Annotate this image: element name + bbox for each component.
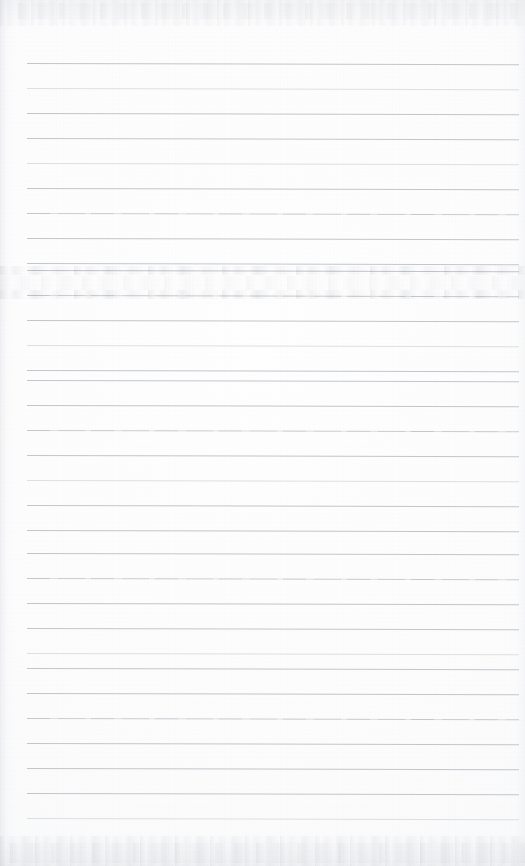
rule-line-15 xyxy=(27,380,519,382)
rule-line-31 xyxy=(27,768,519,770)
rule-line-16 xyxy=(27,405,519,407)
rule-line-4 xyxy=(27,138,519,140)
rule-line-24 xyxy=(27,603,519,605)
rule-line-33 xyxy=(27,818,519,820)
rule-line-12 xyxy=(27,320,519,322)
rule-line-10 xyxy=(27,270,519,272)
rule-line-23 xyxy=(27,578,519,580)
rule-line-26 xyxy=(27,653,519,655)
rule-line-32 xyxy=(27,793,519,795)
rule-line-6 xyxy=(27,188,519,190)
rule-line-1 xyxy=(27,63,519,65)
rule-line-7 xyxy=(27,213,519,215)
rule-line-27 xyxy=(27,668,519,670)
rule-line-21 xyxy=(27,530,519,532)
rule-line-18 xyxy=(27,455,519,457)
rule-line-9 xyxy=(27,263,519,265)
rule-line-20 xyxy=(27,505,519,507)
rule-line-29 xyxy=(27,718,519,720)
rule-line-13 xyxy=(27,345,519,347)
rule-line-2 xyxy=(27,88,519,90)
rule-line-22 xyxy=(27,553,519,555)
ruled-lines-group xyxy=(0,0,525,866)
rule-line-8 xyxy=(27,238,519,240)
scan-edge-noise-top xyxy=(0,0,525,26)
scan-edge-noise-bottom xyxy=(0,836,525,866)
rule-line-14 xyxy=(27,370,519,372)
rule-line-30 xyxy=(27,743,519,745)
rule-line-11 xyxy=(27,295,519,297)
scanned-notebook-page xyxy=(0,0,525,866)
rule-line-17 xyxy=(27,430,519,432)
rule-line-28 xyxy=(27,693,519,695)
rule-line-19 xyxy=(27,480,519,482)
rule-line-25 xyxy=(27,628,519,630)
rule-line-3 xyxy=(27,113,519,115)
rule-line-5 xyxy=(27,163,519,165)
